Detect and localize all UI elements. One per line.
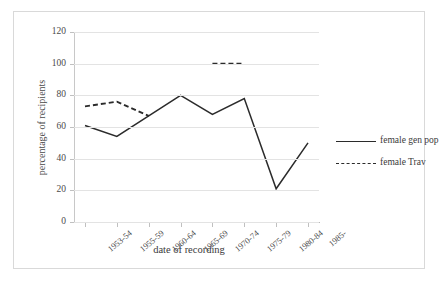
- y-tick-mark: [70, 190, 74, 191]
- x-tick-mark: [149, 223, 150, 227]
- chart-legend: female gen popfemale Trav: [336, 134, 441, 178]
- x-tick-mark: [308, 223, 309, 227]
- legend-label: female Trav: [380, 157, 426, 167]
- y-tick-mark: [70, 127, 74, 128]
- x-tick-mark: [181, 223, 182, 227]
- gridline-40: [74, 159, 319, 160]
- legend-label: female gen pop: [380, 135, 439, 145]
- legend-item: female gen pop: [336, 134, 441, 156]
- gridline-20: [74, 190, 319, 191]
- y-axis-title-wrapper: percentage of recipients: [22, 22, 38, 222]
- gridline-100: [74, 64, 319, 65]
- series-line: [85, 95, 308, 188]
- legend-marker-solid: [336, 141, 376, 142]
- x-axis-title: date of recording: [14, 244, 364, 255]
- y-tick-mark: [70, 32, 74, 33]
- x-tick-mark: [85, 223, 86, 227]
- chart-frame: 020406080100120 percentage of recipients…: [13, 11, 425, 269]
- gridline-60: [74, 127, 319, 128]
- gridline-80: [74, 95, 319, 96]
- x-tick-mark: [244, 223, 245, 227]
- y-tick-label: 0: [38, 217, 66, 226]
- legend-marker-dashed: [336, 163, 376, 164]
- gridline-0: [74, 222, 319, 223]
- x-tick-mark: [276, 223, 277, 227]
- y-tick-mark: [70, 95, 74, 96]
- y-axis-title: percentage of recipients: [36, 43, 47, 213]
- series-line: [85, 102, 149, 116]
- x-tick-mark: [117, 223, 118, 227]
- y-tick-mark: [70, 64, 74, 65]
- plot-area: [74, 32, 319, 222]
- y-tick-mark: [70, 222, 74, 223]
- legend-item: female Trav: [336, 156, 441, 178]
- gridline-120: [74, 32, 319, 33]
- x-tick-mark: [212, 223, 213, 227]
- y-tick-mark: [70, 159, 74, 160]
- y-tick-label: 120: [38, 27, 66, 36]
